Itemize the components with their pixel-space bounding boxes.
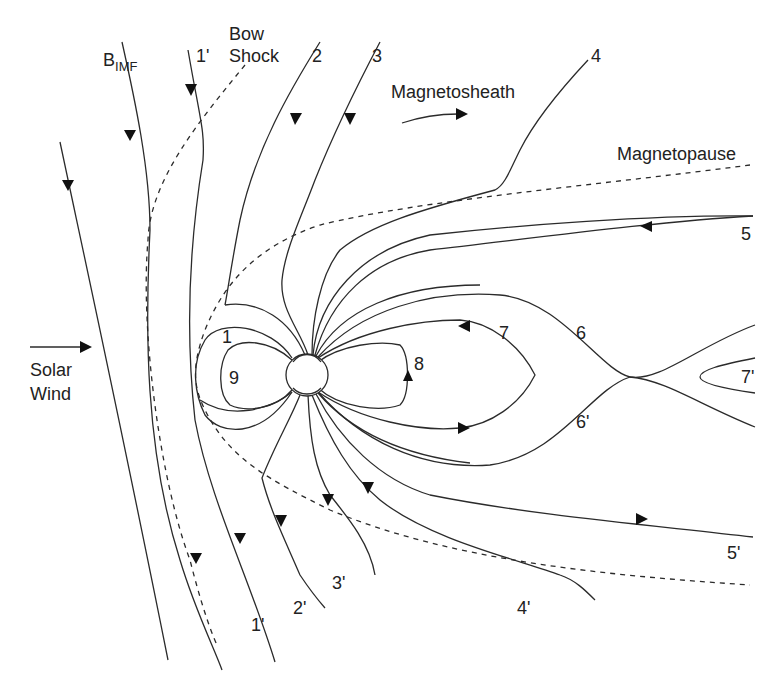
field-line-2-arrow bbox=[290, 113, 302, 125]
field-label-8: 8 bbox=[414, 354, 424, 374]
magnetopause-label: Magnetopause bbox=[617, 144, 736, 164]
field-line-4 bbox=[312, 60, 588, 355]
field-line-6prime bbox=[318, 377, 755, 466]
solar-wind-label-line1: Solar bbox=[30, 360, 72, 380]
imf-line-bimf bbox=[122, 42, 222, 670]
field-label-6prime: 6' bbox=[576, 412, 589, 432]
field-line-north-a bbox=[313, 216, 753, 355]
field-label-9: 9 bbox=[229, 368, 239, 388]
field-line-3 bbox=[282, 42, 380, 355]
field-line-5prime-arrow bbox=[636, 513, 648, 525]
field-label-1prime-top: 1' bbox=[196, 46, 209, 66]
field-label-1: 1 bbox=[222, 327, 232, 347]
field-label-7: 7 bbox=[499, 323, 509, 343]
field-line-5-arrow bbox=[640, 221, 652, 232]
field-line-2 bbox=[225, 42, 320, 305]
earth bbox=[286, 354, 328, 396]
field-label-3: 3 bbox=[372, 46, 382, 66]
bow-shock-label-line2: Shock bbox=[229, 46, 280, 66]
field-label-7prime: 7' bbox=[741, 367, 754, 387]
field-label-2prime: 2' bbox=[293, 598, 306, 618]
magnetosheath-arrow-line bbox=[402, 114, 458, 123]
magnetosphere-diagram: BIMF 1' Bow Shock 2 3 Magnetosheath 4 Ma… bbox=[0, 0, 783, 683]
imf-arrow-bimf bbox=[124, 130, 136, 141]
field-label-6: 6 bbox=[576, 323, 586, 343]
field-line-5 bbox=[315, 216, 753, 355]
field-label-4prime: 4' bbox=[517, 598, 530, 618]
field-line-2-inner bbox=[225, 304, 305, 355]
field-line-7-arrow-bottom bbox=[458, 422, 470, 434]
solar-wind-arrow-icon bbox=[80, 341, 92, 353]
field-label-2: 2 bbox=[312, 46, 322, 66]
bimf-label: BIMF bbox=[103, 50, 137, 74]
field-label-4: 4 bbox=[591, 46, 601, 66]
field-label-5: 5 bbox=[741, 224, 751, 244]
magnetosheath-label: Magnetosheath bbox=[391, 82, 515, 102]
solar-wind-label-line2: Wind bbox=[30, 384, 71, 404]
imf-arrow-bimf-lower bbox=[190, 553, 202, 564]
field-line-south-a bbox=[318, 393, 470, 463]
magnetosheath-arrow-icon bbox=[456, 108, 468, 120]
field-line-2prime bbox=[262, 395, 325, 608]
field-line-3-arrow bbox=[344, 113, 356, 125]
imf-line-far bbox=[60, 142, 168, 660]
field-line-5prime bbox=[316, 394, 753, 537]
field-line-7-arrow-top bbox=[458, 320, 470, 332]
field-line-8 bbox=[318, 343, 408, 408]
field-line-1prime bbox=[188, 50, 275, 662]
field-label-1prime-bottom: 1' bbox=[251, 615, 264, 635]
field-line-1prime-arrow-bottom bbox=[234, 533, 246, 544]
imf-arrow-far bbox=[62, 180, 74, 191]
field-line-8-arrow bbox=[403, 370, 413, 381]
field-line-6 bbox=[318, 294, 755, 377]
bow-shock-label-line1: Bow bbox=[229, 24, 265, 44]
field-label-5prime: 5' bbox=[727, 543, 740, 563]
field-label-3prime: 3' bbox=[332, 573, 345, 593]
field-line-3prime-arrow bbox=[322, 494, 334, 506]
